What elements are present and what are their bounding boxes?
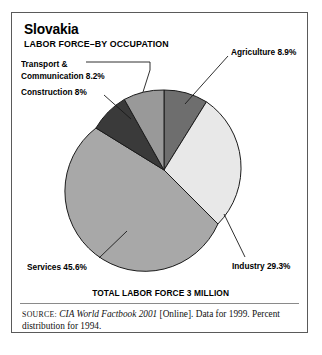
slice-label-agriculture: Agriculture 8.9% xyxy=(231,47,296,59)
pie-slices xyxy=(65,90,241,271)
figure-root: Slovakia LABOR FORCE–BY OCCUPATION xyxy=(0,0,322,355)
slice-label-construction: Construction 8% xyxy=(21,87,87,99)
slice-label-transport-line1: Transport & xyxy=(21,59,67,69)
slice-label-transport: Transport & Communication 8.2% xyxy=(21,59,105,82)
source-rest: [Online]. Data for 1999. xyxy=(160,309,250,319)
leader-line-agriculture xyxy=(185,56,228,104)
source-title: CIA World Factbook 2001 xyxy=(59,309,157,319)
total-labor-force-caption: TOTAL LABOR FORCE 3 MILLION xyxy=(0,288,322,298)
total-labor-force-text: TOTAL LABOR FORCE 3 MILLION xyxy=(93,288,230,298)
slice-label-industry: Industry 29.3% xyxy=(232,261,290,273)
source-divider xyxy=(20,303,299,304)
source-note: SOURCE: CIA World Factbook 2001 [Online]… xyxy=(22,309,294,333)
leader-line-industry xyxy=(224,214,245,257)
source-prefix: SOURCE: xyxy=(22,310,57,319)
slice-label-services: Services 45.6% xyxy=(27,262,87,274)
slice-label-transport-line2: Communication 8.2% xyxy=(21,71,105,81)
